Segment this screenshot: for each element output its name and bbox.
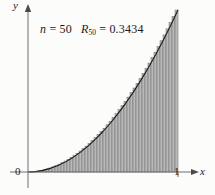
riemann-rectangle — [109, 121, 112, 172]
riemann-rectangle — [118, 110, 121, 172]
riemann-rectangle — [127, 97, 130, 172]
riemann-rectangle — [136, 83, 139, 172]
riemann-rectangle — [175, 10, 178, 172]
riemann-rectangle — [106, 125, 109, 172]
riemann-rectangle — [142, 73, 145, 172]
riemann-rectangle — [139, 78, 142, 172]
riemann-rectangle — [82, 149, 85, 172]
riemann-rectangle — [79, 151, 82, 172]
riemann-rectangle — [166, 29, 169, 172]
riemann-rectangle — [103, 128, 106, 172]
riemann-rectangle — [73, 155, 76, 172]
riemann-rectangle — [133, 88, 136, 172]
y-axis-arrowhead — [25, 4, 31, 12]
riemann-rectangle — [124, 101, 127, 172]
riemann-rectangle — [163, 35, 166, 172]
x-axis-arrowhead — [191, 169, 199, 175]
riemann-rectangle — [157, 47, 160, 172]
riemann-rectangle — [100, 132, 103, 173]
riemann-rectangle — [151, 58, 154, 172]
riemann-rectangle — [115, 114, 118, 172]
riemann-rectangle — [85, 146, 88, 172]
riemann-rectangles — [28, 10, 178, 172]
riemann-rectangle — [121, 106, 124, 172]
riemann-rectangle — [97, 135, 100, 172]
riemann-rectangle — [169, 23, 172, 172]
riemann-rectangle — [88, 143, 91, 172]
riemann-rectangle — [145, 68, 148, 172]
riemann-rectangle — [172, 16, 175, 172]
riemann-sum-plot — [0, 0, 215, 195]
riemann-rectangle — [160, 41, 163, 172]
riemann-rectangle — [76, 153, 79, 172]
riemann-rectangle — [70, 157, 73, 172]
riemann-rectangle — [148, 63, 151, 172]
riemann-rectangle — [112, 118, 115, 173]
riemann-rectangle — [94, 138, 97, 172]
riemann-rectangle — [154, 52, 157, 172]
riemann-rectangle — [130, 93, 133, 172]
riemann-rectangle — [91, 141, 94, 172]
